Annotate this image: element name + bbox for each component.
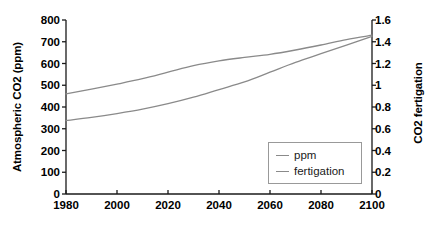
line-series-ppm [66,35,372,94]
legend-label-ppm: ppm [294,149,316,161]
legend-line-icon-ppm [276,155,289,156]
legend-line-icon-fertigation [276,171,289,172]
legend-item-ppm: ppm [276,149,316,161]
line-series-fertigation [66,36,372,120]
legend-label-fertigation: fertigation [294,165,345,177]
plot-area [0,0,431,228]
chart-figure: Atmospheric CO2 (ppm) CO2 fertigation 80… [0,0,431,228]
chart-legend: ppm fertigation [268,142,362,184]
data-series [66,35,372,120]
legend-item-fertigation: fertigation [276,165,345,177]
